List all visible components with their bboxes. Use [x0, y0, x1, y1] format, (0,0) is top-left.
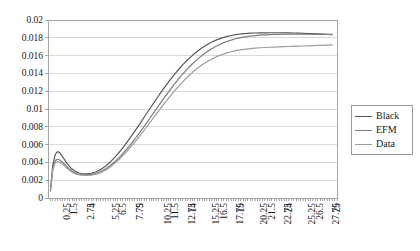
y-tick-label: 0.004: [22, 157, 43, 167]
legend-item[interactable]: Data: [355, 137, 410, 151]
legend-color-swatch: [355, 130, 372, 131]
y-tick-label: 0.006: [22, 140, 43, 150]
y-tick-label: 0.018: [22, 33, 43, 43]
x-tick-label: 1.5: [69, 203, 79, 215]
y-tick-label: 0.012: [22, 86, 43, 96]
y-tick-label: 0: [38, 193, 43, 203]
legend-item[interactable]: EFM: [355, 123, 410, 137]
series-line-efm: [50, 34, 332, 191]
x-tick-label: 9: [134, 203, 144, 208]
legend-color-swatch: [355, 116, 372, 117]
y-tick-label: 0.016: [22, 51, 43, 61]
y-tick-label: 0.014: [22, 68, 43, 78]
legend-label: Black: [376, 110, 399, 122]
x-tick-label: 11.5: [170, 203, 180, 219]
x-tick-label: 14: [187, 203, 197, 213]
x-tick-label: 24: [284, 203, 294, 213]
y-tick-label: 0.008: [22, 122, 43, 132]
chart-legend: BlackEFMData: [351, 105, 413, 155]
x-tick-label: 6.5: [117, 203, 127, 215]
y-tick-label: 0.002: [22, 175, 43, 185]
legend-label: Data: [376, 138, 395, 150]
x-tick-label: 29: [332, 203, 342, 213]
legend-item[interactable]: Black: [355, 109, 410, 123]
x-tick-label: 4: [86, 203, 96, 208]
y-tick-label: 0.01: [26, 104, 43, 114]
series-line-black: [50, 33, 332, 191]
x-tick-label: 26.5: [315, 203, 325, 220]
x-tick-label: 16.5: [219, 203, 229, 220]
line-chart: 00.0020.0040.0060.0080.010.0120.0140.016…: [0, 0, 420, 251]
legend-label: EFM: [376, 124, 397, 136]
y-tick-label: 0.02: [26, 15, 43, 25]
legend-color-swatch: [355, 144, 372, 145]
x-tick-label: 19: [236, 203, 246, 213]
series-line-data: [50, 45, 332, 191]
x-tick-label: 21.5: [267, 203, 277, 220]
